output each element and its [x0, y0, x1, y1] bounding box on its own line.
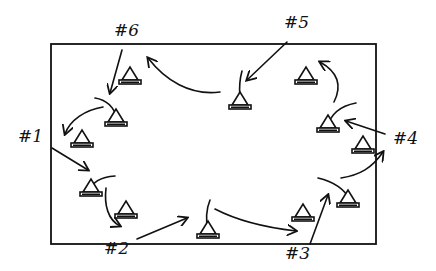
arrows	[52, 42, 385, 244]
arrow-station-1	[52, 148, 88, 170]
station-label-2: #2	[104, 240, 129, 257]
station-label-4: #4	[393, 130, 418, 147]
cone-icon	[80, 179, 102, 196]
cone-icon	[197, 221, 219, 238]
drill-diagram: #6 #5 #1 #4 #2 #3	[0, 0, 436, 271]
cone-icon	[292, 204, 314, 221]
cone-icon	[317, 115, 339, 132]
diagram-canvas	[0, 0, 436, 271]
station-label-3: #3	[285, 245, 310, 262]
cone-icon	[229, 92, 251, 109]
arrow-station-5	[247, 42, 287, 80]
cone-icon	[352, 136, 374, 153]
station-label-1: #1	[18, 128, 43, 145]
cone-icon	[115, 201, 137, 218]
cone-icon	[105, 109, 127, 126]
arrow-station-4	[346, 121, 385, 134]
arrow-station-2	[137, 218, 187, 239]
field-boundary	[51, 44, 376, 244]
station-label-6: #6	[114, 22, 139, 39]
cone-icon	[295, 67, 317, 84]
arrow-station-6	[110, 50, 122, 93]
cone-icon	[71, 130, 93, 147]
station-label-5: #5	[284, 14, 309, 31]
cone-icon	[119, 67, 141, 84]
cone-icon	[337, 190, 359, 207]
